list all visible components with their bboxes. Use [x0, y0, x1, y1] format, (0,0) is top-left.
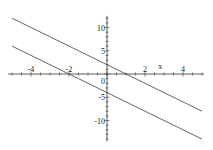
tick-labels: -4-224x1050-5-10	[28, 24, 185, 126]
y-tick-label: 5	[101, 47, 105, 56]
x-tick-label: -2	[66, 65, 73, 74]
y-tick-label: 0	[101, 77, 105, 86]
x-tick-label: 2	[143, 65, 147, 74]
y-tick-label: -10	[94, 117, 105, 126]
axes	[8, 16, 204, 142]
x-tick-label: -4	[28, 65, 35, 74]
y-tick-label: 10	[97, 24, 105, 33]
chart: -4-224x1050-5-10	[0, 0, 213, 150]
x-axis-label: x	[158, 62, 162, 71]
y-tick-label: -5	[98, 93, 105, 102]
x-tick-label: 4	[181, 65, 185, 74]
